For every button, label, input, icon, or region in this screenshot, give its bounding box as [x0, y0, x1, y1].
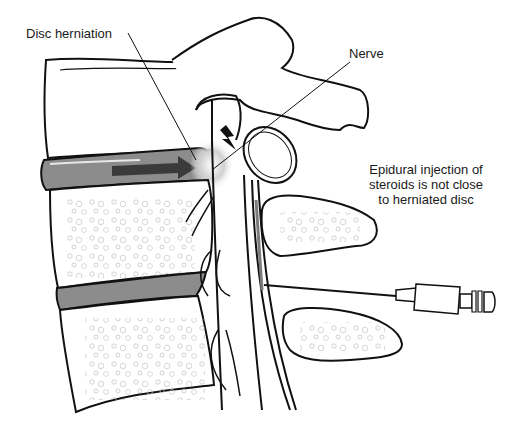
injection-note-line-2: steroids is not close	[346, 177, 506, 192]
spine-illustration	[0, 0, 519, 429]
injection-note-line-1: Epidural injection of	[346, 162, 506, 177]
nerve-label: Nerve	[349, 46, 384, 61]
injection-note-line-3: to herniated disc	[346, 192, 506, 207]
spinous-processes	[262, 195, 402, 360]
disc-herniation-label: Disc herniation	[26, 26, 112, 41]
middle-vertebra	[50, 180, 212, 288]
lower-vertebra	[60, 296, 214, 412]
injection-note: Epidural injection of steroids is not cl…	[346, 162, 506, 207]
